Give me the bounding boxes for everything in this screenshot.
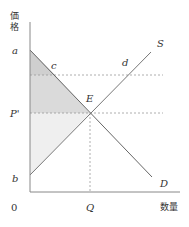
demand-curve-label: D — [159, 178, 168, 189]
x-axis-label: 数量 — [160, 201, 178, 212]
point-a-label: a — [12, 45, 18, 56]
equilibrium-price-label: P' — [9, 108, 19, 119]
point-b-label: b — [12, 173, 18, 184]
point-e-label: E — [85, 93, 94, 104]
point-c-label: c — [51, 60, 57, 71]
equilibrium-quantity-label: Q — [86, 202, 94, 213]
y-axis-label-char-2: 格 — [10, 21, 19, 32]
supply-curve-label: S — [157, 38, 164, 49]
origin-label: 0 — [11, 202, 17, 213]
supply-demand-diagram: 価 格 数量 0 a b c d E P' Q S D — [0, 0, 189, 227]
y-axis-label-char-1: 価 — [10, 10, 19, 21]
point-d-label: d — [122, 57, 128, 68]
